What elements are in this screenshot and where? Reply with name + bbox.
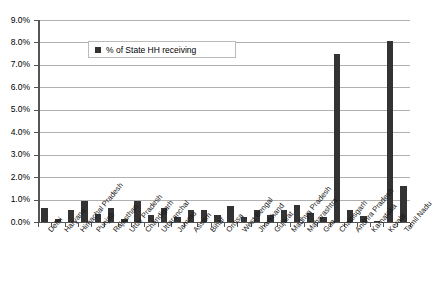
- y-axis-tick-label: 7.0%: [0, 60, 30, 69]
- legend-swatch-icon: [95, 47, 101, 53]
- x-axis-tick: [38, 223, 39, 227]
- y-axis-tick-label: 1.0%: [0, 195, 30, 204]
- chart-legend: % of State HH receiving: [88, 41, 236, 58]
- y-axis-tick-label: 8.0%: [0, 38, 30, 47]
- bar: [41, 208, 47, 222]
- y-axis-tick-label: 2.0%: [0, 173, 30, 182]
- y-axis-tick-label: 4.0%: [0, 128, 30, 137]
- y-axis-tick-label: 0.0%: [0, 218, 30, 227]
- legend-label: % of State HH receiving: [106, 45, 196, 55]
- y-axis-tick-label: 3.0%: [0, 150, 30, 159]
- y-axis-tick-label: 6.0%: [0, 83, 30, 92]
- y-axis-tick-label: 5.0%: [0, 105, 30, 114]
- y-axis-tick-label: 9.0%: [0, 16, 30, 25]
